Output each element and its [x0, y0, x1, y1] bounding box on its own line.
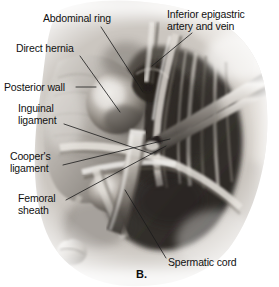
- label-femoral-sheath: Femoral sheath: [18, 192, 55, 216]
- label-inguinal-ligament: Inguinal ligament: [18, 102, 57, 126]
- label-abdominal-ring: Abdominal ring: [43, 12, 111, 24]
- label-direct-hernia: Direct hernia: [16, 42, 74, 54]
- label-spermatic-cord: Spermatic cord: [168, 256, 237, 268]
- label-posterior-wall: Posterior wall: [4, 81, 65, 93]
- label-coopers-ligament: Cooper's ligament: [10, 150, 51, 174]
- label-inferior-epigastric-artery-and-vein: Inferior epigastric artery and vein: [167, 8, 245, 32]
- figure-panel-b: Abdominal ring Inferior epigastric arter…: [0, 0, 279, 287]
- figure-letter: B.: [136, 268, 147, 280]
